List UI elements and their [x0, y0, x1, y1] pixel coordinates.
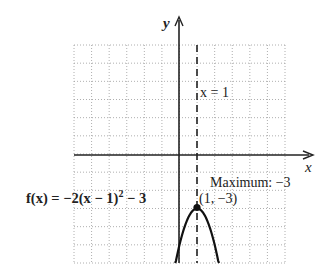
axis-of-symmetry-label: x = 1 [200, 85, 229, 100]
y-axis-label: y [161, 15, 170, 31]
function-label-tail: − 3 [123, 190, 146, 206]
x-axis-label: x [304, 159, 312, 175]
function-label: f(x) = −2(x − 1)2 − 3 [26, 188, 146, 207]
maximum-label: Maximum: −3 [210, 175, 291, 190]
vertex-label: (1, −3) [199, 191, 238, 207]
function-label-base: f(x) = −2(x − 1) [26, 190, 119, 207]
parabola-chart: y x x = 1 Maximum: −3 (1, −3) f(x) = −2(… [0, 0, 327, 269]
